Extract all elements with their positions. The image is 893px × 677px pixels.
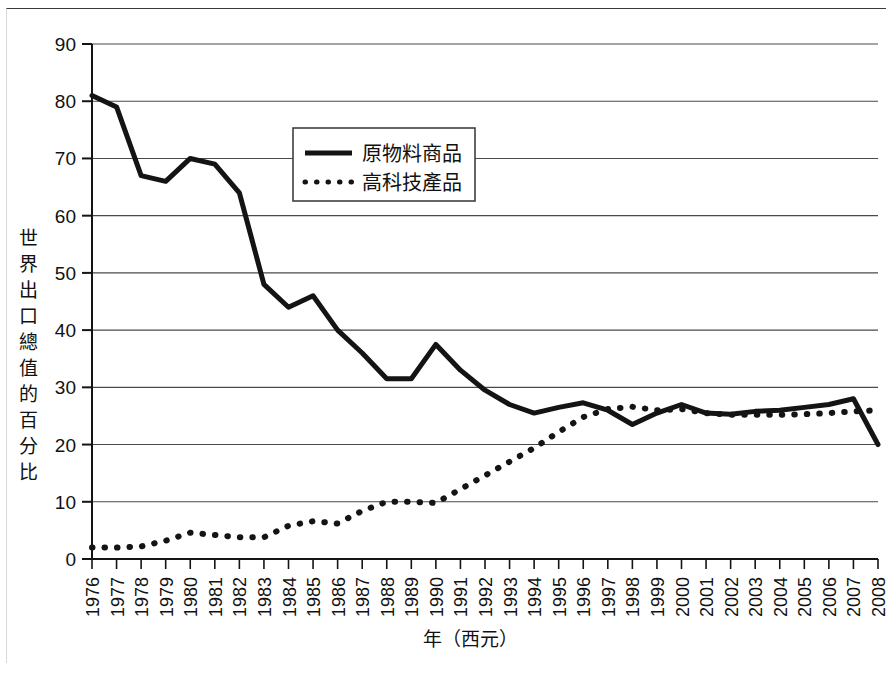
x-tick-label: 1989	[402, 577, 422, 617]
x-axis-title: 年（西元）	[423, 629, 518, 650]
x-tick-label: 1999	[648, 577, 668, 617]
x-tick-label: 2004	[771, 577, 791, 617]
x-tick-label: 2008	[869, 577, 889, 617]
x-tick-label: 2007	[844, 577, 864, 617]
x-tick-label: 2005	[795, 577, 815, 617]
x-tick-label: 1987	[353, 577, 373, 617]
chart-canvas: 0102030405060708090 19761977197819791980…	[0, 0, 893, 677]
x-tick-label: 2000	[673, 577, 693, 617]
y-axis-title: 世界出口總值的百分比	[19, 228, 38, 483]
x-tick-label: 1976	[83, 577, 103, 617]
x-tick-label: 1993	[501, 577, 521, 617]
y-tick-label: 60	[55, 206, 76, 227]
x-tick-label: 1992	[476, 577, 496, 617]
plot-area-background	[92, 44, 878, 559]
x-tick-label: 1990	[427, 577, 447, 617]
x-tick-label: 1985	[304, 577, 324, 617]
x-tick-label: 2006	[820, 577, 840, 617]
x-tick-label: 1991	[451, 577, 471, 617]
y-axis-title-char: 界	[19, 254, 38, 275]
y-tick-label: 50	[55, 263, 76, 284]
x-tick-label: 1978	[132, 577, 152, 617]
y-axis-title-char: 比	[19, 462, 38, 483]
y-tick-label: 10	[55, 492, 76, 513]
x-tick-label: 1980	[181, 577, 201, 617]
y-axis-title-char: 口	[19, 306, 38, 327]
x-tick-label: 2001	[697, 577, 717, 617]
y-axis-title-char: 值	[19, 358, 38, 379]
y-tick-label: 0	[65, 549, 76, 570]
x-tick-label: 1997	[599, 577, 619, 617]
y-tick-label: 80	[55, 91, 76, 112]
x-tick-label: 1977	[108, 577, 128, 617]
x-tick-label: 1988	[378, 577, 398, 617]
legend-label-high-tech: 高科技產品	[362, 172, 462, 194]
x-tick-label: 2003	[746, 577, 766, 617]
y-axis-title-char: 總	[19, 332, 38, 353]
line-chart-figure: 0102030405060708090 19761977197819791980…	[0, 0, 893, 677]
x-tick-label: 1979	[157, 577, 177, 617]
x-tick-label: 1995	[550, 577, 570, 617]
x-tick-label: 1984	[280, 577, 300, 617]
x-tick-label: 1983	[255, 577, 275, 617]
y-tick-label: 30	[55, 377, 76, 398]
y-axis-title-char: 百	[19, 410, 38, 431]
y-axis-title-char: 分	[19, 436, 38, 457]
y-axis-ticks: 0102030405060708090	[55, 34, 92, 570]
x-tick-label: 1986	[329, 577, 349, 617]
y-axis-title-char: 出	[19, 280, 38, 301]
x-tick-label: 1982	[230, 577, 250, 617]
y-axis-title-char: 的	[19, 384, 38, 405]
chart-legend: 原物料商品 高科技產品	[293, 128, 475, 201]
y-tick-label: 70	[55, 148, 76, 169]
x-tick-label: 1981	[206, 577, 226, 617]
x-tick-label: 1996	[574, 577, 594, 617]
x-tick-label: 2002	[722, 577, 742, 617]
x-tick-label: 1998	[623, 577, 643, 617]
x-tick-label: 1994	[525, 577, 545, 617]
chart-page: 0102030405060708090 19761977197819791980…	[0, 0, 893, 677]
y-tick-label: 90	[55, 34, 76, 55]
y-tick-label: 20	[55, 435, 76, 456]
x-axis-ticks: 1976197719781979198019811982198319841985…	[83, 559, 889, 617]
legend-label-raw-materials: 原物料商品	[362, 143, 462, 165]
y-axis-title-char: 世	[19, 228, 38, 249]
y-tick-label: 40	[55, 320, 76, 341]
